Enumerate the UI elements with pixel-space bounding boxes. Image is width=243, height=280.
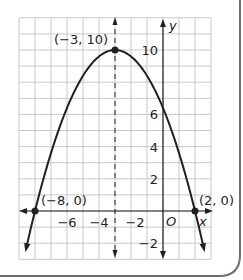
point-marker (32, 208, 39, 215)
point-label: (−3, 10) (54, 32, 108, 47)
y-axis-label: y (168, 18, 177, 33)
point-marker (192, 208, 199, 215)
point-marker (112, 47, 119, 54)
y-tick-label: 6 (150, 107, 158, 122)
curve-right-arrow-icon (200, 243, 206, 252)
y-axis-down-arrow-icon (160, 251, 166, 259)
point-label: (2, 0) (199, 193, 234, 208)
arrow-down-icon (113, 250, 118, 258)
origin-label: O (166, 214, 176, 229)
point-label: (−8, 0) (41, 193, 87, 208)
frame-border (0, 0, 240, 276)
x-tick-label: −6 (57, 215, 76, 230)
x-axis-left-arrow-icon (19, 208, 27, 214)
y-tick-label: 2 (150, 172, 158, 187)
y-tick-label: −2 (139, 236, 158, 251)
y-tick-label: 10 (141, 43, 158, 58)
x-tick-label: −2 (125, 215, 144, 230)
curve-left-arrow-icon (24, 243, 30, 252)
y-tick-label: 4 (150, 140, 158, 155)
y-axis-up-arrow-icon (160, 19, 166, 27)
parabola-chart: y x O −6−4−2 10642−2 (−3, 10)(−8, 0)(2, … (0, 0, 243, 280)
x-tick-label: −4 (89, 215, 108, 230)
x-tick-labels: −6−4−2 (57, 215, 144, 230)
